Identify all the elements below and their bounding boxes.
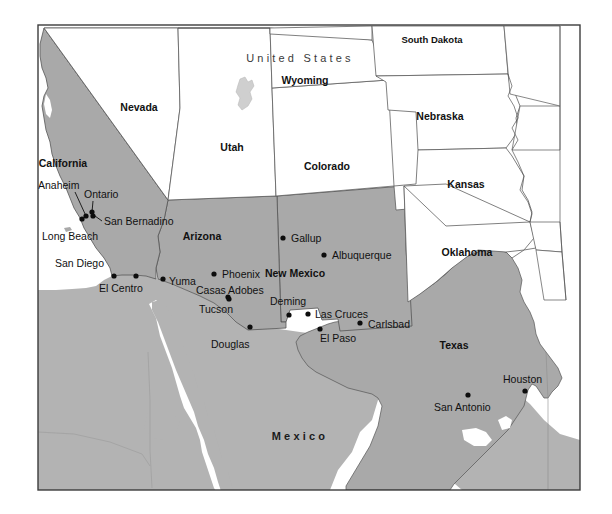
city-dot[interactable] [286,312,291,317]
city-dot[interactable] [111,273,116,278]
city-label[interactable]: Houston [503,373,542,385]
city-dot[interactable] [522,388,527,393]
state-label[interactable]: Wyoming [281,74,328,86]
map-body: AnaheimOntarioLong BeachSan BernadinoSan… [38,25,580,494]
city-label[interactable]: San Diego [55,257,104,269]
state-label[interactable]: Nevada [120,101,158,113]
city-dot[interactable] [317,326,322,331]
city-dot[interactable] [211,271,216,276]
city-label[interactable]: El Centro [99,282,143,294]
city-label[interactable]: Gallup [291,232,322,244]
state-label[interactable]: Kansas [447,178,485,190]
city-label[interactable]: Las Cruces [315,308,368,320]
city-label[interactable]: Long Beach [42,230,98,242]
city-label[interactable]: Albuquerque [332,249,392,261]
city-label[interactable]: San Antonio [434,401,491,413]
city-dot[interactable] [280,235,285,240]
city-dot[interactable] [357,320,362,325]
city-label[interactable]: Yuma [169,275,196,287]
reference-map: AnaheimOntarioLong BeachSan BernadinoSan… [0,0,612,514]
state-shape-minnesota-sliver [504,26,560,106]
state-label[interactable]: Utah [220,141,243,153]
city-dot[interactable] [90,213,95,218]
state-label[interactable]: South Dakota [401,34,463,45]
state-label[interactable]: Nebraska [416,110,463,122]
city-label[interactable]: Anaheim [38,179,80,191]
city-label[interactable]: Tucson [199,303,233,315]
state-shape-colorado [272,80,394,196]
state-label[interactable]: Colorado [304,160,350,172]
city-dot[interactable] [321,252,326,257]
map-container: AnaheimOntarioLong BeachSan BernadinoSan… [0,0,612,514]
state-label[interactable]: Texas [440,339,469,351]
state-label[interactable]: Oklahoma [442,246,493,258]
state-label[interactable]: New Mexico [265,267,325,279]
state-label[interactable]: California [39,157,88,169]
city-dot[interactable] [247,324,252,329]
country-label: Mexico [272,430,329,442]
city-dot[interactable] [79,216,84,221]
city-label[interactable]: San Bernadino [104,215,174,227]
city-dot[interactable] [133,273,138,278]
country-label: United States [246,52,354,64]
city-dot[interactable] [160,276,165,281]
city-dot[interactable] [226,296,231,301]
city-label[interactable]: Deming [270,295,306,307]
city-label[interactable]: El Paso [320,332,356,344]
state-label[interactable]: Arizona [183,230,222,242]
city-label[interactable]: Ontario [84,188,119,200]
city-label[interactable]: Douglas [211,338,250,350]
city-label[interactable]: Casas Adobes [196,284,264,296]
city-label[interactable]: Carlsbad [368,318,410,330]
city-dot[interactable] [465,392,470,397]
city-label[interactable]: Phoenix [222,268,261,280]
city-dot[interactable] [305,311,310,316]
state-shape-iowa-sliver [512,106,560,150]
